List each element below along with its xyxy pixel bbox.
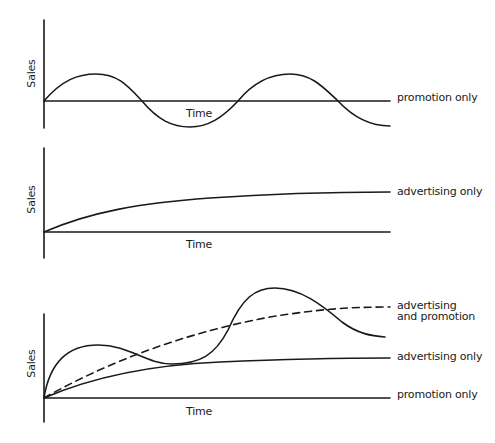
panel3-advertising-only-curve — [44, 358, 390, 398]
panel2-advertising-curve — [44, 192, 390, 232]
panel3-series-label-promotion-only: promotion only — [397, 389, 477, 401]
panel2-x-label: Time — [186, 239, 212, 251]
diagram-canvas — [0, 0, 495, 443]
panel1-series-label-promotion-only: promotion only — [397, 92, 477, 104]
panel3-series-label-advertising-line2: and promotion — [397, 311, 475, 323]
panel3-combined-curve — [44, 288, 385, 398]
panel1-y-label: Sales — [25, 59, 38, 87]
panel3-y-label: Sales — [25, 349, 38, 377]
panel2-y-label: Sales — [25, 185, 38, 213]
panel1-x-label: Time — [186, 108, 212, 120]
panel3-x-label: Time — [186, 406, 212, 418]
panel3-series-label-advertising-only: advertising only — [397, 351, 482, 363]
panel2-series-label-advertising-only: advertising only — [397, 186, 482, 198]
panel3-combined-trend-dashed — [44, 307, 390, 398]
